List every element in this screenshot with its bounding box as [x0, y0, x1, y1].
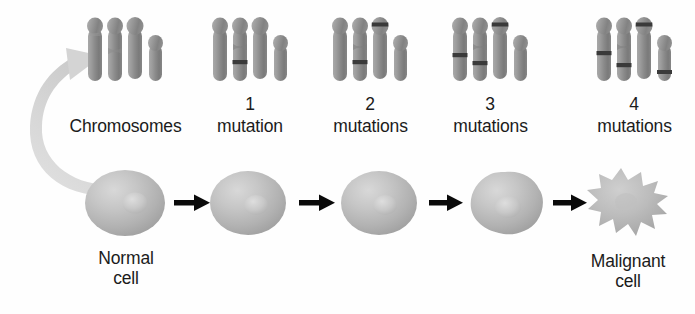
chromosome-2 [352, 18, 368, 82]
chromosome-1 [332, 18, 348, 82]
chromosome-4 [513, 35, 528, 81]
chromosome-2 [472, 18, 488, 82]
mutation-band [657, 70, 672, 74]
chromosome-4 [273, 35, 288, 81]
chromosome-3 [127, 17, 144, 79]
cell-normal-icon [85, 170, 165, 236]
chromosome-group-stage-4 [596, 17, 672, 81]
chromosome-2 [616, 18, 632, 82]
cell-stage-2-icon [341, 171, 417, 235]
arrow-4-icon [553, 195, 587, 212]
chromosome-4 [657, 35, 672, 81]
chromosome-group-stage-3 [452, 17, 528, 81]
chromosome-1 [212, 18, 228, 82]
chromosome-3 [252, 17, 269, 79]
chromosome-2 [107, 18, 123, 82]
chromosome-1 [87, 18, 103, 82]
arrow-2-icon [299, 195, 335, 212]
chromosome-1 [452, 18, 468, 82]
chromosome-1 [596, 18, 612, 82]
cell-stage-3-icon [471, 172, 543, 235]
mutation-band [473, 61, 488, 65]
arrow-1-icon [174, 195, 210, 212]
chromosome-group-stage-1 [212, 17, 288, 81]
chromosome-2 [232, 18, 248, 82]
chromosome-3 [636, 17, 653, 79]
carcinogenesis-figure: Chromosomes 1 mutation 2 mutations 3 mut… [0, 0, 695, 314]
cell-stage-1-icon [210, 171, 286, 235]
mutation-band [372, 23, 389, 27]
mutation-band [636, 23, 653, 27]
figure-graphics [0, 0, 695, 314]
cell-malignant-icon [587, 168, 668, 236]
chromosome-4 [148, 35, 163, 81]
chromosome-3 [372, 17, 389, 79]
chromosome-4 [393, 35, 408, 81]
mutation-band [617, 63, 632, 67]
chromosome-3 [492, 17, 509, 79]
chromosome-group-stage-2 [332, 17, 408, 81]
mutation-band [597, 51, 612, 55]
mutation-band [453, 53, 468, 57]
mutation-band [353, 60, 368, 64]
chromosome-group-stage-0 [87, 17, 163, 81]
mutation-band [233, 60, 248, 64]
arrow-3-icon [429, 195, 463, 212]
mutation-band [492, 23, 509, 27]
